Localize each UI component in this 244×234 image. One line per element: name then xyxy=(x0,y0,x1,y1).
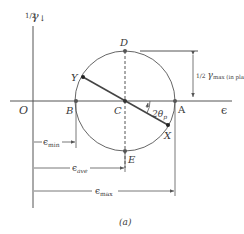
label-E: E xyxy=(127,154,136,165)
dim-ave-label: ϵave xyxy=(72,163,88,174)
dim-min-label: ϵmin xyxy=(43,137,60,148)
angle-arrow-icon xyxy=(147,103,148,108)
horizontal-axis-label: ϵ xyxy=(221,104,227,117)
mohr-circle-diagram: 1/2 γ ↓ O ϵ B C A D E Y X 2θp 1/2 γmax (… xyxy=(0,0,244,234)
origin-label: O xyxy=(19,104,28,117)
label-Y: Y xyxy=(71,72,79,83)
label-C: C xyxy=(114,105,122,116)
label-D: D xyxy=(119,37,128,48)
vertical-axis-arrow-icon: ↓ xyxy=(39,14,46,23)
point-D xyxy=(123,49,127,53)
point-X xyxy=(166,123,170,127)
point-Y xyxy=(81,75,85,79)
figure-caption: (a) xyxy=(119,217,132,227)
point-C xyxy=(123,99,127,103)
vertical-axis-symbol: γ xyxy=(32,10,39,23)
label-X: X xyxy=(163,130,172,141)
label-A: A xyxy=(177,104,186,115)
label-B: B xyxy=(65,105,73,116)
dim-max-label: ϵmax xyxy=(95,186,113,197)
radius-label: 1/2 γmax (in plane) xyxy=(196,70,244,81)
